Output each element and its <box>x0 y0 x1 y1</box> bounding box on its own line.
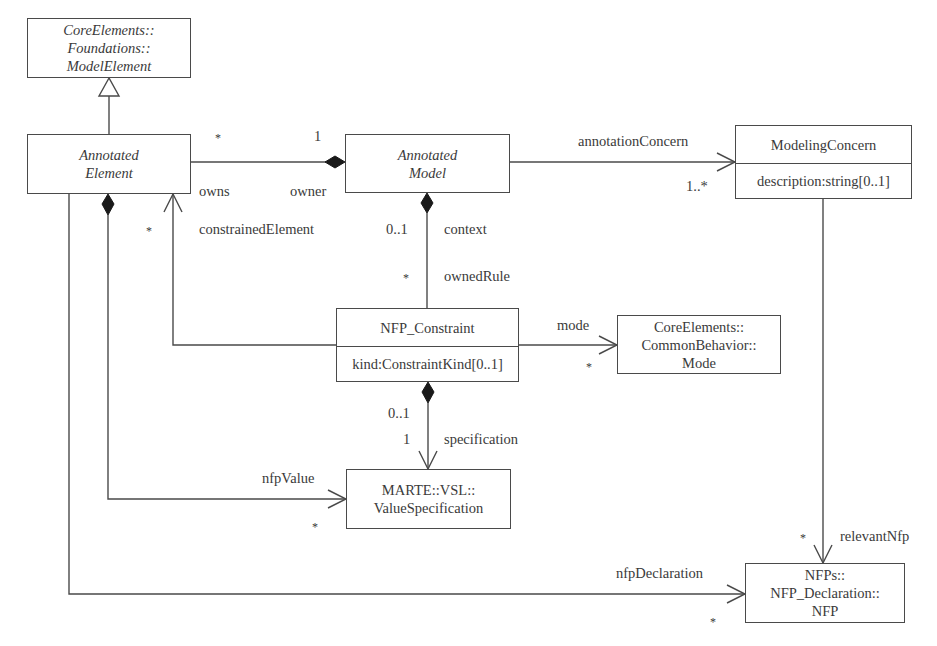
class-annotated-element[interactable]: Annotated Element <box>27 134 191 194</box>
class-name: ModelingConcern <box>736 126 911 163</box>
class-nfp[interactable]: NFPs:: NFP_Declaration:: NFP <box>745 563 905 623</box>
multiplicity-label: * <box>146 223 152 239</box>
multiplicity-label: 1 <box>314 128 321 144</box>
class-value-specification[interactable]: MARTE::VSL:: ValueSpecification <box>346 469 511 529</box>
class-name-line: Foundations:: <box>68 39 151 57</box>
role-label: nfpDeclaration <box>616 565 703 581</box>
nfp-value-association-line <box>108 215 346 499</box>
class-name-line: Element <box>85 164 133 182</box>
class-attribute: kind:ConstraintKind[0..1] <box>337 346 518 381</box>
role-label: owner <box>290 183 326 199</box>
class-annotated-model[interactable]: Annotated Model <box>345 134 510 193</box>
class-name-line: ModelElement <box>67 57 152 75</box>
class-modeling-concern[interactable]: ModelingConcern description:string[0..1] <box>735 125 912 199</box>
multiplicity-label: 0..1 <box>388 405 410 421</box>
class-name-line: ModelingConcern <box>771 136 877 154</box>
role-label: specification <box>444 431 518 447</box>
role-label: annotationConcern <box>578 133 688 149</box>
multiplicity-label: * <box>215 130 221 146</box>
class-name-line: Annotated <box>79 146 139 164</box>
class-attribute: description:string[0..1] <box>736 163 911 198</box>
class-mode[interactable]: CoreElements:: CommonBehavior:: Mode <box>617 315 781 374</box>
class-name: CoreElements:: CommonBehavior:: Mode <box>618 316 780 373</box>
class-nfp-constraint[interactable]: NFP_Constraint kind:ConstraintKind[0..1] <box>336 308 519 382</box>
multiplicity-label: * <box>710 614 716 630</box>
role-label: constrainedElement <box>199 221 314 237</box>
class-name-line: Mode <box>682 354 716 372</box>
role-label: ownedRule <box>444 268 510 284</box>
class-name: NFP_Constraint <box>337 309 518 346</box>
composition-diamond-icon <box>422 382 434 403</box>
multiplicity-label: 0..1 <box>386 221 408 237</box>
class-name: MARTE::VSL:: ValueSpecification <box>347 470 510 528</box>
class-name-line: NFP_Declaration:: <box>770 584 880 602</box>
role-label: owns <box>199 183 230 199</box>
constrained-element-line <box>173 194 336 345</box>
class-name-line: Model <box>409 164 446 182</box>
nfp-declaration-line <box>69 194 745 594</box>
class-model-element[interactable]: CoreElements:: Foundations:: ModelElemen… <box>27 18 191 78</box>
class-name-line: CoreElements:: <box>63 21 154 39</box>
composition-diamond-icon <box>325 156 345 168</box>
composition-diamond-icon <box>421 193 433 213</box>
uml-class-diagram: CoreElements:: Foundations:: ModelElemen… <box>0 0 937 646</box>
class-name-line: NFP <box>812 602 839 620</box>
class-name-line: CommonBehavior:: <box>641 336 756 354</box>
multiplicity-label: 1..* <box>686 178 708 194</box>
role-label: mode <box>557 317 589 333</box>
class-name-line: Annotated <box>398 146 458 164</box>
class-name: CoreElements:: Foundations:: ModelElemen… <box>28 19 190 77</box>
class-name: Annotated Model <box>346 135 509 192</box>
multiplicity-label: * <box>800 530 806 546</box>
class-name: NFPs:: NFP_Declaration:: NFP <box>746 564 904 622</box>
role-label: context <box>444 221 487 237</box>
role-label: nfpValue <box>262 470 314 486</box>
class-name-line: NFPs:: <box>805 566 845 584</box>
multiplicity-label: * <box>312 519 318 535</box>
class-name-line: ValueSpecification <box>374 499 484 517</box>
composition-diamond-icon <box>102 194 114 215</box>
multiplicity-label: * <box>403 270 409 286</box>
class-name-line: NFP_Constraint <box>380 319 474 337</box>
class-name-line: CoreElements:: <box>654 318 744 336</box>
class-name: Annotated Element <box>28 135 190 193</box>
role-label: relevantNfp <box>840 528 909 544</box>
class-name-line: MARTE::VSL:: <box>382 481 475 499</box>
multiplicity-label: 1 <box>403 431 410 447</box>
multiplicity-label: * <box>586 359 592 375</box>
generalization-triangle-icon <box>99 78 119 96</box>
